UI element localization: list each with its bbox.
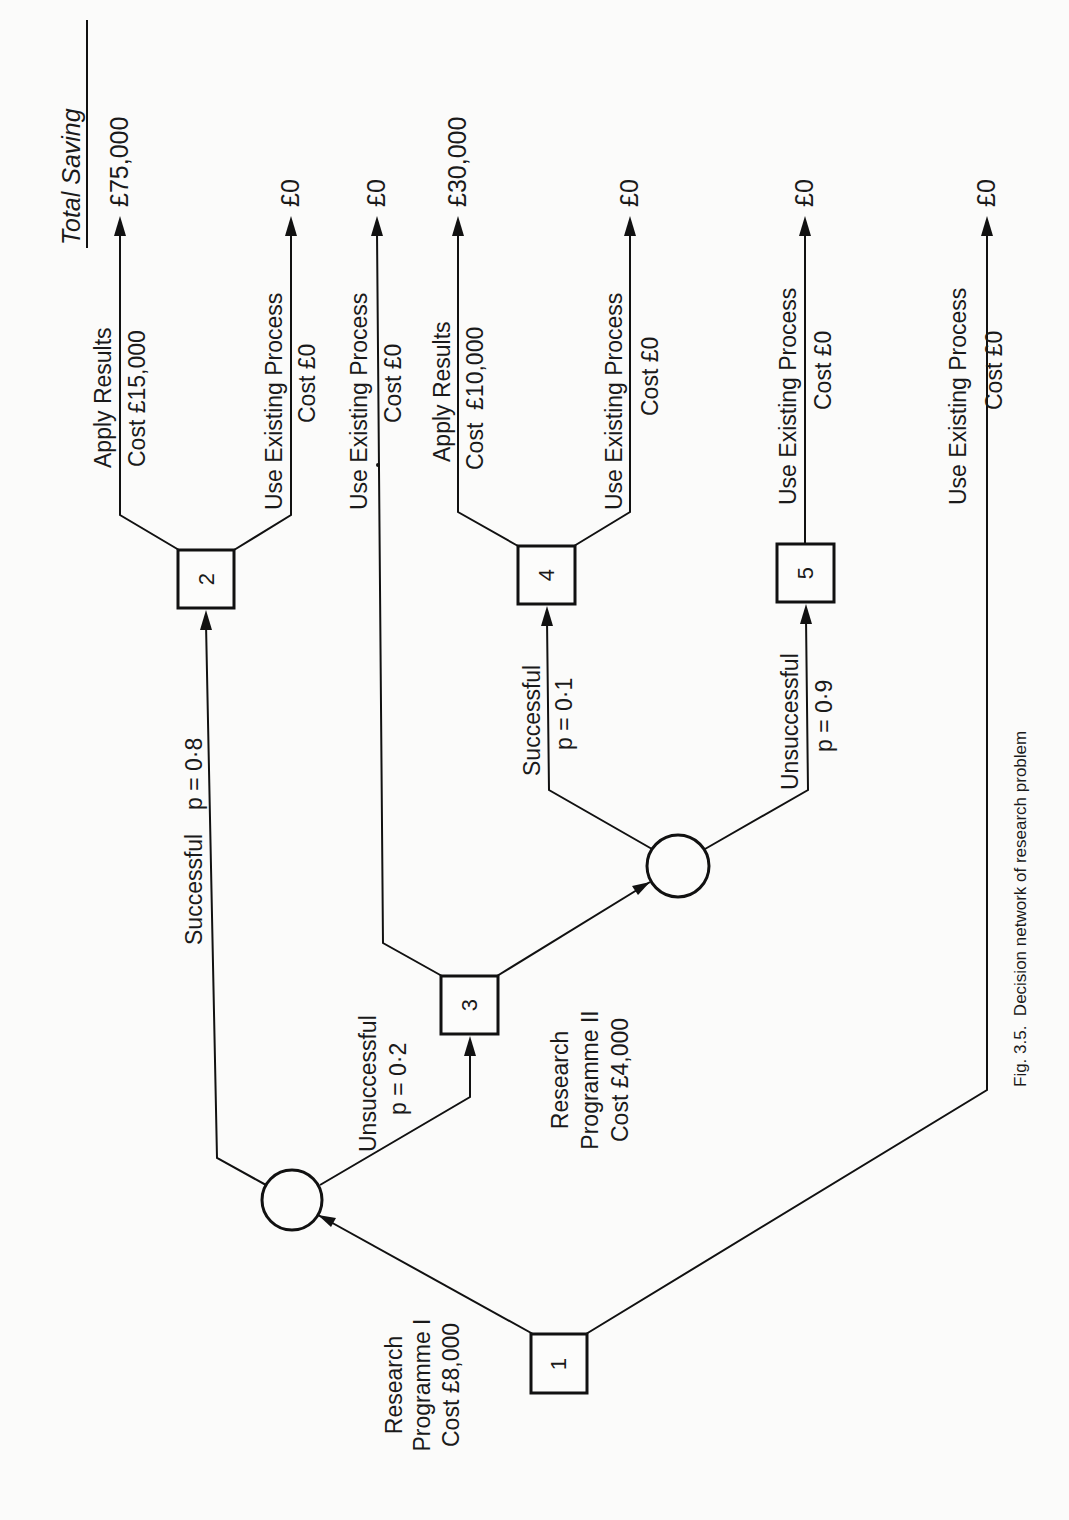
junction-dot xyxy=(376,463,380,467)
decision-node-2: 2 xyxy=(178,550,234,608)
total-saving-header: Total Saving xyxy=(57,108,85,245)
programme1-line1: Research xyxy=(381,1336,407,1434)
decision-node-4: 4 xyxy=(518,546,575,604)
saving-d2-existing: £0 xyxy=(276,179,304,207)
c1-successful-label: Successful xyxy=(181,834,207,945)
c2-unsuccessful-prob: p = 0·9 xyxy=(811,680,837,752)
node-label: 1 xyxy=(546,1358,571,1370)
arrowhead-icon xyxy=(624,216,636,236)
c1-unsuccessful-label: Unsuccessful xyxy=(355,1015,381,1152)
saving-d1-existing: £0 xyxy=(972,179,1000,207)
d1-existing-cost: Cost £0 xyxy=(981,331,1007,410)
saving-d4-apply: £30,000 xyxy=(443,117,471,207)
arrowhead-icon xyxy=(318,1215,336,1227)
d4-apply-cost: Cost £10,000 xyxy=(462,327,488,470)
programme2-line2: Programme II xyxy=(577,1010,603,1149)
arrowhead-icon xyxy=(371,216,383,236)
decision-node-3: 3 xyxy=(441,976,498,1034)
arrowhead-icon xyxy=(800,604,812,624)
arrowhead-icon xyxy=(799,216,811,236)
c1-successful-prob: p = 0·8 xyxy=(181,738,207,810)
d3-existing-cost: Cost £0 xyxy=(380,344,406,423)
saving-d3-existing: £0 xyxy=(362,179,390,207)
c2-successful-label: Successful xyxy=(519,665,545,776)
node-label: 5 xyxy=(793,567,818,579)
arrowhead-icon xyxy=(285,216,297,236)
c1-unsuccessful-prob: p = 0·2 xyxy=(385,1043,411,1115)
arrowhead-icon xyxy=(981,216,993,236)
arrowhead-icon xyxy=(200,610,212,630)
arrowhead-icon xyxy=(452,216,464,236)
d2-existing-cost: Cost £0 xyxy=(294,344,320,423)
decision-node-5: 5 xyxy=(777,544,834,602)
edge-d1-to-c1 xyxy=(318,1215,533,1334)
node-label: 3 xyxy=(457,999,482,1011)
chance-node-1 xyxy=(262,1170,322,1230)
saving-d5-existing: £0 xyxy=(790,179,818,207)
arrowhead-icon xyxy=(464,1036,476,1056)
d5-existing-label: Use Existing Process xyxy=(775,288,801,505)
decision-node-1: 1 xyxy=(531,1334,587,1393)
arrowhead-icon xyxy=(632,882,650,895)
programme2-line3: Cost £4,000 xyxy=(607,1018,633,1142)
d5-existing-cost: Cost £0 xyxy=(810,331,836,410)
decision-network-figure: 1 2 3 4 5 Total Saving £75,000 £0 £0 £30… xyxy=(0,0,1069,1520)
d4-apply-label: Apply Results xyxy=(429,321,455,462)
c2-successful-prob: p = 0·1 xyxy=(551,678,577,750)
d4-existing-label: Use Existing Process xyxy=(601,293,627,510)
chance-node-2 xyxy=(647,835,709,897)
node-label: 4 xyxy=(534,569,559,581)
d2-apply-cost: Cost £15,000 xyxy=(124,330,150,467)
figure-caption: Fig. 3.5. Decision network of research p… xyxy=(1011,731,1030,1087)
d4-existing-cost: Cost £0 xyxy=(637,337,663,416)
edge-c1-to-d2 xyxy=(206,624,266,1185)
programme1-line3: Cost £8,000 xyxy=(438,1323,464,1447)
d2-existing-label: Use Existing Process xyxy=(261,293,287,510)
programme2-line1: Research xyxy=(547,1031,573,1129)
diagram-canvas: 1 2 3 4 5 Total Saving £75,000 £0 £0 £30… xyxy=(0,0,1069,1520)
c2-unsuccessful-label: Unsuccessful xyxy=(777,653,803,790)
arrowhead-icon xyxy=(541,606,553,626)
arrowhead-icon xyxy=(114,216,126,236)
d1-existing-label: Use Existing Process xyxy=(945,288,971,505)
d3-existing-label: Use Existing Process xyxy=(346,293,372,510)
saving-d2-apply: £75,000 xyxy=(105,117,133,207)
edge-d3-to-c2 xyxy=(497,882,650,976)
d2-apply-label: Apply Results xyxy=(90,327,116,468)
node-label: 2 xyxy=(194,573,219,585)
saving-d4-existing: £0 xyxy=(615,179,643,207)
programme1-line2: Programme I xyxy=(409,1319,435,1452)
